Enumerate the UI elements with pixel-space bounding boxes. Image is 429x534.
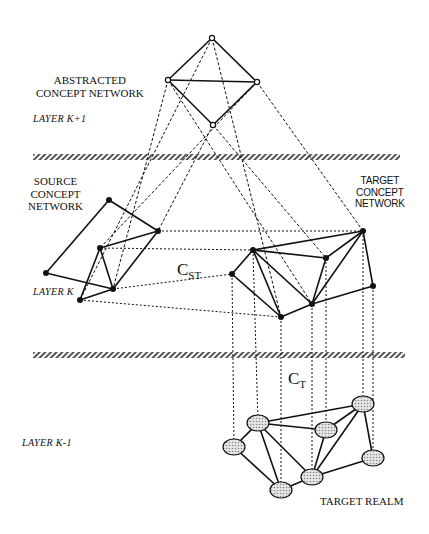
- layer-separator-band: [33, 154, 400, 160]
- label-line: ABSTRACTED: [36, 74, 144, 87]
- label-line: CONCEPT: [28, 188, 83, 201]
- layer-separators: [33, 154, 405, 358]
- target-network-edge: [253, 231, 363, 250]
- target-realm-node: [352, 396, 374, 412]
- label-line: CONCEPT: [355, 187, 405, 199]
- abstracted-network-node: [209, 35, 214, 40]
- target-network-edge: [253, 250, 326, 258]
- symbol-main: C: [288, 369, 299, 388]
- abstracted-network-edge: [212, 38, 257, 82]
- source-network-edge: [113, 231, 158, 289]
- source-network-node: [155, 228, 161, 234]
- target-network-edge: [326, 231, 363, 258]
- concept-network-diagram: ABSTRACTED CONCEPT NETWORK LAYER K+1 SOU…: [0, 0, 429, 534]
- source-network-label: SOURCE CONCEPT NETWORK: [28, 175, 83, 213]
- source-network-node: [43, 270, 49, 276]
- layer-k-label: LAYER K: [33, 286, 74, 298]
- target-realm-correspondence-line: [232, 274, 234, 447]
- symbol-sub: T: [299, 378, 306, 390]
- source-target-correspondence-line: [80, 300, 281, 317]
- layer-separator-band: [33, 352, 405, 358]
- target-network-edge: [253, 250, 281, 317]
- abstracted-network-node: [254, 79, 259, 84]
- target-realm-label: TARGET REALM: [320, 495, 404, 508]
- source-network-node: [97, 245, 103, 251]
- target-network-node: [360, 228, 366, 234]
- symbol-sub: ST: [188, 269, 201, 281]
- abstracted-network-edge: [168, 80, 257, 82]
- source-network-edge: [100, 248, 113, 289]
- label-line: NETWORK: [355, 198, 405, 210]
- target-network-edge: [312, 286, 373, 304]
- c-t-symbol: CT: [288, 369, 306, 391]
- symbol-main: C: [177, 260, 188, 279]
- source-network-node: [110, 286, 116, 292]
- source-network-node: [77, 297, 83, 303]
- target-network-edge: [232, 250, 253, 274]
- target-realm-node: [247, 415, 269, 431]
- target-realm-edge: [312, 404, 363, 477]
- source-network-edge: [80, 248, 100, 300]
- abstracted-network-edge: [213, 82, 257, 125]
- target-network-node: [309, 301, 315, 307]
- target-network-edge: [312, 231, 363, 304]
- label-text: LAYER K: [33, 286, 74, 297]
- layer-k-minus-1-label: LAYER K-1: [22, 437, 72, 449]
- target-network-node: [323, 255, 329, 261]
- target-realm-node: [362, 450, 384, 466]
- abstracted-network-edge: [168, 80, 213, 125]
- label-line: TARGET: [355, 175, 405, 187]
- target-network-edge: [363, 231, 373, 286]
- target-network-node: [278, 314, 284, 320]
- source-target-correspondence-line: [113, 274, 232, 289]
- c-st-symbol: CST: [177, 260, 201, 282]
- abstracted-network-edge: [168, 38, 212, 80]
- target-realm-node: [270, 482, 292, 498]
- source-network-node: [106, 197, 112, 203]
- target-realm-node: [301, 469, 323, 485]
- target-realm-correspondence-line: [253, 250, 258, 423]
- abstracted-network-node: [210, 122, 215, 127]
- label-line: NETWORK: [28, 200, 83, 213]
- target-realm-node: [315, 422, 337, 438]
- target-network-edge: [312, 258, 326, 304]
- target-network-node: [250, 247, 256, 253]
- target-network-label: TARGET CONCEPT NETWORK: [355, 175, 405, 210]
- abstracted-network-node: [165, 77, 170, 82]
- target-network-edge: [232, 274, 281, 317]
- source-network-edge: [109, 200, 158, 231]
- abstraction-projection-line: [100, 82, 257, 248]
- target-realm-edge: [258, 423, 312, 477]
- target-network-node: [370, 283, 376, 289]
- network-nodes: [43, 35, 384, 498]
- label-line: SOURCE: [28, 175, 83, 188]
- target-realm-node: [223, 439, 245, 455]
- label-line: CONCEPT NETWORK: [36, 87, 144, 100]
- layer-k-plus-1-label: LAYER K+1: [33, 113, 86, 125]
- abstraction-projection-line: [212, 38, 281, 317]
- target-network-node: [229, 271, 235, 277]
- target-realm-edge: [258, 404, 363, 423]
- target-network-edge: [281, 304, 312, 317]
- abstracted-network-label: ABSTRACTED CONCEPT NETWORK: [36, 74, 144, 99]
